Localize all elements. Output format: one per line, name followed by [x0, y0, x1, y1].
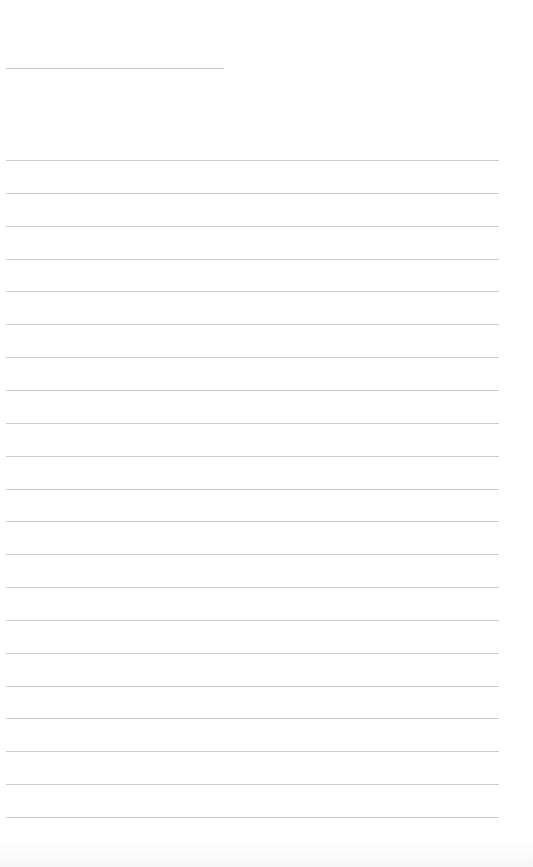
bottom-edge — [0, 840, 533, 867]
ruled-line — [6, 160, 499, 161]
ruled-line — [6, 489, 499, 490]
ruled-line — [6, 291, 499, 292]
ruled-line — [6, 324, 499, 325]
ruled-line — [6, 718, 499, 719]
ruled-line — [6, 390, 499, 391]
ruled-line — [6, 686, 499, 687]
ruled-line — [6, 620, 499, 621]
ruled-line — [6, 423, 499, 424]
ruled-line — [6, 784, 499, 785]
ruled-line — [6, 751, 499, 752]
ruled-line — [6, 259, 499, 260]
lined-paper-page — [0, 0, 533, 867]
title-line — [6, 68, 224, 69]
ruled-line — [6, 587, 499, 588]
ruled-line — [6, 521, 499, 522]
ruled-line — [6, 226, 499, 227]
ruled-line — [6, 456, 499, 457]
ruled-line — [6, 817, 499, 818]
ruled-line — [6, 554, 499, 555]
ruled-line — [6, 193, 499, 194]
ruled-line — [6, 357, 499, 358]
ruled-line — [6, 653, 499, 654]
